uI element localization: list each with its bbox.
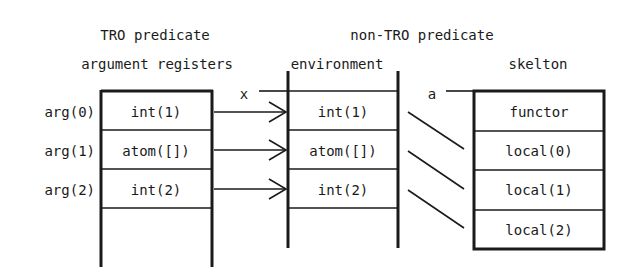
skelton-cell-local2: local(2) bbox=[505, 222, 572, 238]
pointer-label-a: a bbox=[428, 86, 436, 102]
row-label-arg1: arg(1) bbox=[44, 143, 95, 159]
title-tro-predicate: TRO predicate bbox=[100, 27, 210, 43]
tro-environment-diagram: TRO predicate argument registers non-TRO… bbox=[0, 0, 637, 276]
environment-cell-0: int(1) bbox=[318, 104, 369, 120]
register-cell-1: atom([]) bbox=[122, 143, 189, 159]
register-cell-0: int(1) bbox=[131, 104, 182, 120]
pointer-label-x: x bbox=[240, 86, 248, 102]
copy-arrows bbox=[214, 102, 286, 199]
register-cell-2: int(2) bbox=[131, 182, 182, 198]
skelton-link-lines bbox=[408, 112, 464, 228]
title-non-tro-predicate: non-TRO predicate bbox=[350, 27, 493, 43]
title-skelton: skelton bbox=[508, 56, 567, 72]
environment-cell-2: int(2) bbox=[318, 182, 369, 198]
skelton-cell-local1: local(1) bbox=[505, 182, 572, 198]
title-environment: environment bbox=[291, 56, 384, 72]
row-label-arg2: arg(2) bbox=[44, 182, 95, 198]
skelton-cell-functor: functor bbox=[509, 104, 568, 120]
skelton-cell-local0: local(0) bbox=[505, 143, 572, 159]
environment-cell-1: atom([]) bbox=[309, 143, 376, 159]
title-argument-registers: argument registers bbox=[81, 56, 233, 72]
row-label-arg0: arg(0) bbox=[44, 104, 95, 120]
environment-box bbox=[288, 71, 398, 248]
